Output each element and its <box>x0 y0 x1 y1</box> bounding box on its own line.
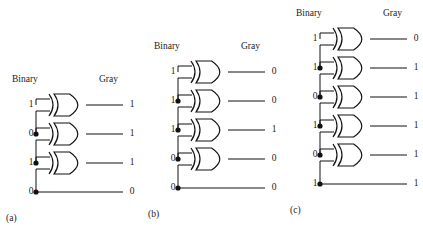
xor-gate-back-c-1 <box>333 57 337 79</box>
output-bit-a-2: 1 <box>127 157 137 167</box>
circuit-c: BinaryGray101101110111(c) <box>288 6 423 233</box>
output-bit-c-4: 1 <box>411 149 421 159</box>
xor-gate-body-b-3 <box>196 148 220 170</box>
xor-gate-body-c-2 <box>338 86 362 108</box>
panel-caption-c: (c) <box>290 205 301 215</box>
input-bit-c-4: 0 <box>310 149 320 159</box>
xor-gate-back-a-1 <box>49 123 53 145</box>
xor-gate-body-b-2 <box>196 119 220 141</box>
xor-gate-back-c-2 <box>333 86 337 108</box>
input-bit-c-3: 1 <box>310 120 320 130</box>
input-bit-b-1: 1 <box>168 95 178 105</box>
output-bit-b-4: 0 <box>269 182 279 192</box>
binary-header-a: Binary <box>12 74 38 84</box>
xor-gate-back-b-2 <box>191 119 195 141</box>
binary-header-b: Binary <box>154 41 180 51</box>
xor-gate-back-a-0 <box>49 94 53 116</box>
circuit-schematic-b <box>146 39 286 237</box>
input-bit-a-0: 1 <box>26 99 36 109</box>
input-bit-b-0: 1 <box>168 66 178 76</box>
xor-gate-body-a-2 <box>54 152 78 174</box>
input-bit-a-1: 0 <box>26 128 36 138</box>
input-bit-a-2: 1 <box>26 157 36 167</box>
xor-gate-back-b-3 <box>191 148 195 170</box>
output-bit-c-5: 1 <box>411 178 421 188</box>
output-bit-b-1: 0 <box>269 95 279 105</box>
input-bit-a-3: 0 <box>26 186 36 196</box>
input-bit-c-0: 1 <box>310 33 320 43</box>
output-bit-b-0: 0 <box>269 66 279 76</box>
output-bit-c-0: 0 <box>411 33 421 43</box>
circuit-schematic-c <box>288 6 423 233</box>
circuit-schematic-a <box>4 72 144 241</box>
circuit-a: BinaryGray11011100(a) <box>4 72 144 241</box>
panel-caption-a: (a) <box>6 213 17 223</box>
xor-gate-body-b-1 <box>196 90 220 112</box>
binary-header-c: Binary <box>296 8 322 18</box>
xor-gate-back-c-0 <box>333 28 337 50</box>
gray-header-c: Gray <box>383 8 402 18</box>
output-bit-c-3: 1 <box>411 120 421 130</box>
output-bit-a-3: 0 <box>127 186 137 196</box>
xor-gate-back-c-3 <box>333 115 337 137</box>
gray-header-a: Gray <box>99 74 118 84</box>
output-bit-b-2: 1 <box>269 124 279 134</box>
xor-gate-body-c-1 <box>338 57 362 79</box>
xor-gate-body-a-0 <box>54 94 78 116</box>
input-bit-c-1: 1 <box>310 62 320 72</box>
output-bit-a-1: 1 <box>127 128 137 138</box>
panel-caption-b: (b) <box>148 209 159 219</box>
xor-gate-back-a-2 <box>49 152 53 174</box>
xor-gate-back-c-4 <box>333 144 337 166</box>
input-bit-b-3: 0 <box>168 153 178 163</box>
gray-header-b: Gray <box>241 41 260 51</box>
input-bit-c-2: 0 <box>310 91 320 101</box>
xor-gate-back-b-1 <box>191 90 195 112</box>
xor-gate-body-c-3 <box>338 115 362 137</box>
xor-gate-back-b-0 <box>191 61 195 83</box>
xor-gate-body-c-0 <box>338 28 362 50</box>
output-bit-b-3: 0 <box>269 153 279 163</box>
input-bit-b-4: 0 <box>168 182 178 192</box>
xor-gate-body-b-0 <box>196 61 220 83</box>
input-bit-c-5: 1 <box>310 178 320 188</box>
xor-gate-body-c-4 <box>338 144 362 166</box>
xor-gate-body-a-1 <box>54 123 78 145</box>
output-bit-c-2: 1 <box>411 91 421 101</box>
output-bit-c-1: 1 <box>411 62 421 72</box>
output-bit-a-0: 1 <box>127 99 137 109</box>
circuit-b: BinaryGray1010110000(b) <box>146 39 286 237</box>
input-bit-b-2: 1 <box>168 124 178 134</box>
